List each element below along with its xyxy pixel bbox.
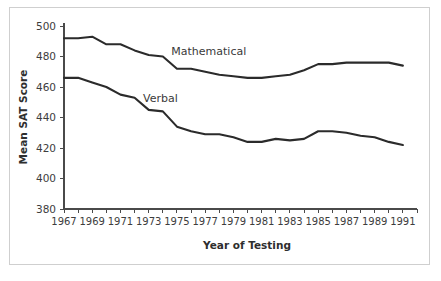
- y-axis-tick-label: 420: [36, 142, 56, 154]
- x-axis-tick-label: 1975: [164, 216, 189, 227]
- x-axis-tick-label: 1985: [305, 216, 330, 227]
- y-axis-tick-label: 500: [36, 20, 56, 32]
- x-axis-tick-label: 1981: [249, 216, 274, 227]
- series-line-verbal: [64, 78, 403, 145]
- series-label-mathematical: Mathematical: [171, 45, 246, 58]
- x-axis-tick-label: 1969: [80, 216, 105, 227]
- y-axis-ticks: [60, 26, 64, 209]
- x-axis-tick-label: 1989: [362, 216, 387, 227]
- y-axis-title-text: Mean SAT Score: [17, 70, 29, 165]
- y-axis-tick-label: 380: [36, 203, 56, 215]
- x-axis-tick-label: 1987: [334, 216, 359, 227]
- y-axis-tick-label: 440: [36, 111, 56, 123]
- y-axis-tick-labels: 380400420440460480500: [36, 20, 56, 215]
- y-axis-tick-label: 400: [36, 172, 56, 184]
- y-axis-tick-label: 460: [36, 81, 56, 93]
- x-axis-tick-label: 1967: [51, 216, 76, 227]
- x-axis-tick-label: 1977: [192, 216, 217, 227]
- sat-score-line-chart: Mean SAT Score 380400420440460480500 196…: [0, 0, 441, 281]
- x-axis-tick-label: 1983: [277, 216, 302, 227]
- x-axis-tick-label: 1979: [221, 216, 246, 227]
- chart-figure: Mean SAT Score 380400420440460480500 196…: [0, 0, 441, 281]
- x-axis-ticks: [64, 209, 417, 213]
- x-axis-tick-label: 1991: [390, 216, 415, 227]
- y-axis-title: Mean SAT Score: [17, 70, 29, 165]
- y-axis-tick-label: 480: [36, 50, 56, 62]
- x-axis-tick-label: 1973: [136, 216, 161, 227]
- series-label-verbal: Verbal: [143, 92, 178, 105]
- x-axis-tick-labels: 1967196919711973197519771979198119831985…: [51, 216, 415, 227]
- x-axis-tick-label: 1971: [108, 216, 133, 227]
- x-axis-title-text: Year of Testing: [202, 239, 291, 251]
